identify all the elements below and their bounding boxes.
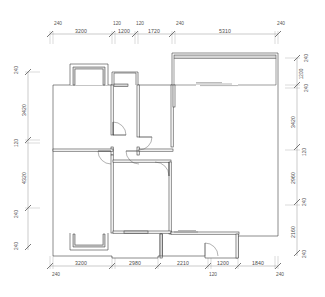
dim-bottom-inner-240-b: 240 [276, 272, 284, 277]
dim-right-inner-240-a: 240 [304, 54, 309, 62]
window-lower-left-side [160, 234, 162, 256]
bay-window-bottom-left [70, 233, 108, 250]
dim-top-1720: 1720 [148, 28, 160, 34]
dim-right-2960: 2960 [290, 172, 296, 184]
bottom-dimension-chain: 3200 2980 2210 1200 1840 240 120 240 [47, 256, 284, 277]
right-dimension-chain: 3420 2960 2160 240 1200 240 120 240 240 [285, 54, 309, 258]
dim-top-5310: 5310 [219, 28, 231, 34]
dim-top-1200: 1200 [118, 28, 130, 34]
dim-right-inner-240-b: 240 [304, 84, 309, 92]
window-center-bottom [124, 231, 148, 234]
dim-left-inner-240-c: 240 [14, 242, 19, 250]
dim-top-3200: 3200 [75, 28, 87, 34]
dim-left-inner-240-a: 240 [14, 66, 19, 74]
dim-bottom-2980: 2980 [129, 260, 141, 266]
floor-plan-drawing: 3200 1200 1720 5310 240 120 120 240 240 [0, 0, 325, 297]
dim-top-inner-120-a: 120 [113, 21, 121, 26]
bay-window-top-left [70, 64, 108, 85]
top-dimension-chain: 3200 1200 1720 5310 240 120 120 240 240 [47, 21, 285, 44]
dim-top-inner-240-c: 240 [277, 21, 285, 26]
bay-window-top-middle [114, 73, 136, 85]
dim-bottom-3200: 3200 [75, 260, 87, 266]
dim-left-3420: 3420 [21, 104, 27, 116]
dim-left-inner-240-b: 240 [14, 210, 19, 218]
dim-left-inner-120: 120 [14, 139, 19, 147]
dim-right-inner-240-c: 240 [302, 198, 307, 206]
left-witness-lines [25, 72, 40, 208]
dim-bottom-1200: 1200 [217, 260, 229, 266]
dim-right-inner-240-d: 240 [302, 250, 307, 258]
dim-right-inner-120: 120 [302, 148, 307, 156]
dim-bottom-1840: 1840 [252, 260, 264, 266]
window-hall-top [114, 84, 128, 87]
dim-top-inner-120-b: 120 [136, 21, 144, 26]
left-dimension-chain: 3420 4320 240 120 240 240 [14, 66, 40, 250]
dim-bottom-2210: 2210 [177, 260, 189, 266]
dim-right-3420: 3420 [290, 116, 296, 128]
dim-right-2160: 2160 [290, 226, 296, 238]
floor-plan-sheet: 3200 1200 1720 5310 240 120 120 240 240 [0, 0, 325, 297]
dim-top-inner-240-a: 240 [54, 21, 62, 26]
dim-top-inner-240-b: 240 [176, 21, 184, 26]
dim-bottom-inner-120: 120 [209, 272, 217, 277]
dim-right-inner-1200: 1200 [299, 68, 304, 79]
dim-left-4320: 4320 [21, 172, 27, 184]
dim-bottom-inner-240-a: 240 [52, 272, 60, 277]
